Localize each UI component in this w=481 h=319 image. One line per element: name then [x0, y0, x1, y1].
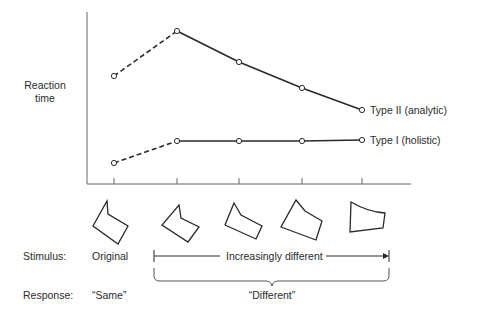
series-type1 [111, 137, 364, 165]
stimulus-row-label: Stimulus: [23, 251, 66, 262]
stimulus-shapes [93, 200, 385, 244]
stimulus-range-label: Increasingly different [226, 251, 323, 262]
series-type2 [111, 28, 364, 112]
y-axis-label-line1: Reaction [24, 80, 65, 91]
shape-diff-1 [162, 205, 199, 242]
stimulus-original-label: Original [92, 251, 128, 262]
shape-diff-2 [225, 203, 262, 239]
diagram-canvas [0, 0, 481, 319]
series-label-type2: Type II (analytic) [370, 105, 447, 116]
shape-diff-4 [350, 202, 385, 232]
different-brace [154, 268, 389, 286]
shape-diff-3 [281, 200, 322, 240]
x-ticks [114, 178, 362, 184]
response-row-label: Response: [23, 290, 73, 301]
y-axis-label-line2: time [35, 93, 55, 104]
response-same-label: “Same” [92, 290, 126, 301]
series-label-type1: Type I (holistic) [370, 135, 441, 146]
response-different-label: “Different” [249, 290, 296, 301]
shape-original [93, 201, 128, 244]
